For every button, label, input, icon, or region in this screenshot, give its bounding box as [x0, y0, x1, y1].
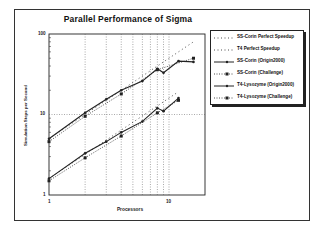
y-tick-1: 1: [43, 192, 46, 197]
chart-legend: SS-Corin Perfect Speedup T4 Perfect Spee…: [210, 30, 304, 105]
data-point: [156, 111, 159, 114]
x-tick-1: 1: [48, 199, 51, 204]
dotted-line-square-icon: [213, 71, 235, 77]
legend-item-t4-perfect: T4 Perfect Speedup: [213, 45, 301, 55]
y-tick-100: 100: [38, 31, 46, 36]
dotted-line-square-icon: [213, 95, 235, 101]
data-point: [156, 68, 159, 71]
y-tick-10: 10: [40, 111, 45, 116]
data-point: [48, 137, 51, 140]
series-line: [49, 98, 179, 179]
series-line: [49, 100, 179, 181]
y-axis-label: Simulation Steps per Second: [23, 81, 28, 151]
data-point: [84, 152, 87, 155]
data-point: [120, 92, 123, 95]
data-point: [120, 135, 123, 138]
dotted-line-icon: [213, 47, 235, 53]
data-point: [105, 98, 108, 101]
data-point: [192, 61, 195, 64]
x-axis-label: Processors: [100, 207, 160, 212]
data-point: [84, 111, 87, 114]
data-point: [177, 99, 180, 102]
data-point: [120, 89, 123, 92]
data-point: [156, 107, 159, 110]
data-point: [105, 140, 108, 143]
data-point: [84, 115, 87, 118]
data-point: [141, 80, 144, 83]
data-point: [192, 57, 195, 60]
legend-item-t4-origin2000: T4-Lysozyme (Origin2000): [213, 81, 301, 91]
legend-item-t4-challenge: T4-Lysozyme (Challenge): [213, 93, 301, 103]
legend-item-sscorin-origin2000: SS-Corin (Origin2000): [213, 57, 301, 67]
solid-line-dot-icon: [213, 59, 235, 65]
data-point: [48, 179, 51, 182]
solid-line-dot-icon: [213, 83, 235, 89]
data-point: [120, 131, 123, 134]
data-point: [162, 71, 165, 74]
data-point: [177, 60, 180, 63]
legend-item-sscorin-perfect: SS-Corin Perfect Speedup: [213, 33, 301, 43]
data-point: [162, 110, 165, 113]
dotted-line-icon: [213, 35, 235, 41]
x-tick-10: 10: [166, 199, 171, 204]
data-point: [48, 140, 51, 143]
data-point: [84, 156, 87, 159]
legend-item-sscorin-challenge: SS-Corin (Challenge): [213, 69, 301, 79]
